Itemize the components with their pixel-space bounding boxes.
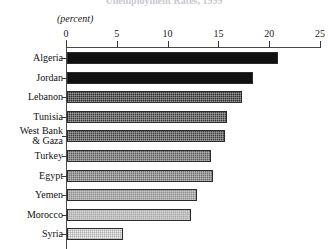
- x-axis-tick-label: 15: [213, 28, 223, 39]
- x-axis-tick-label: 10: [163, 28, 173, 39]
- x-axis-tick-label: 25: [315, 28, 325, 39]
- bar: [67, 150, 211, 162]
- bar-category-label: Syria: [0, 229, 63, 239]
- bar-category-label: Morocco: [0, 210, 63, 220]
- x-axis-tick-mark: [269, 41, 270, 48]
- bar-category-label: Algeria: [0, 53, 63, 63]
- bar: [67, 52, 278, 64]
- bar: [67, 189, 197, 201]
- bar: [67, 170, 213, 182]
- bar-category-label: Yemen: [0, 190, 63, 200]
- bar-category-label: Tunisia: [0, 112, 63, 122]
- bar-category-label: Jordan: [0, 73, 63, 83]
- x-axis-line: [66, 47, 321, 48]
- x-axis-tick-mark: [117, 41, 118, 48]
- x-axis-tick-mark: [320, 41, 321, 48]
- x-axis-tick-label: 0: [64, 28, 69, 39]
- bar-category-label: Lebanon: [0, 92, 63, 102]
- bar: [67, 111, 227, 123]
- x-axis-tick-mark: [218, 41, 219, 48]
- bar-category-label: West Bank & Gaza: [0, 126, 63, 146]
- bar: [67, 209, 191, 221]
- bar: [67, 228, 123, 240]
- bar: [67, 130, 225, 142]
- x-axis-tick-mark: [168, 41, 169, 48]
- x-axis-tick-label: 20: [264, 28, 274, 39]
- x-axis-tick-label: 5: [114, 28, 119, 39]
- x-axis-tick-mark: [66, 41, 67, 48]
- bar-category-label: Egypt: [0, 171, 63, 181]
- bar: [67, 72, 253, 84]
- bar-chart-plot: 0510152025AlgeriaJordanLebanonTunisiaWes…: [0, 0, 328, 249]
- bar-category-label: Turkey: [0, 151, 63, 161]
- bar: [67, 91, 242, 103]
